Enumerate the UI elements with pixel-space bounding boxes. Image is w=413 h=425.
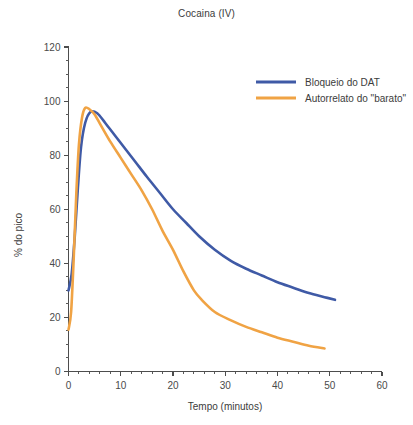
series-group: [69, 107, 335, 348]
y-axis-major-ticks: [64, 47, 69, 372]
chart-legend: Bloqueio do DATAutorrelato do "barato": [256, 77, 407, 104]
x-tick-label: 60: [376, 380, 388, 391]
chart-plot-area: 020406080100120 0102030405060 Tempo (min…: [0, 0, 413, 425]
y-tick-label: 60: [49, 204, 61, 215]
x-tick-label: 0: [66, 380, 72, 391]
y-axis-title: % do pico: [13, 213, 24, 257]
x-tick-label: 10: [115, 380, 127, 391]
x-tick-label: 30: [220, 380, 232, 391]
legend-label-1: Autorrelato do "barato": [305, 93, 407, 104]
y-tick-label: 20: [49, 312, 61, 323]
y-tick-label: 80: [49, 150, 61, 161]
y-tick-label: 100: [44, 96, 61, 107]
y-tick-label: 40: [49, 258, 61, 269]
x-tick-label: 50: [324, 380, 336, 391]
x-axis-title: Tempo (minutos): [188, 401, 262, 412]
y-axis-tick-labels: 020406080100120: [44, 42, 61, 378]
y-tick-label: 120: [44, 42, 61, 53]
x-axis-tick-labels: 0102030405060: [66, 380, 388, 391]
chart-container: Cocaina (IV) 020406080100120 01020304050…: [0, 0, 413, 425]
x-tick-label: 40: [272, 380, 284, 391]
x-axis-major-ticks: [69, 372, 383, 377]
series-line-barato: [69, 107, 325, 348]
y-tick-label: 0: [55, 366, 61, 377]
legend-label-0: Bloqueio do DAT: [305, 77, 380, 88]
x-tick-label: 20: [167, 380, 179, 391]
